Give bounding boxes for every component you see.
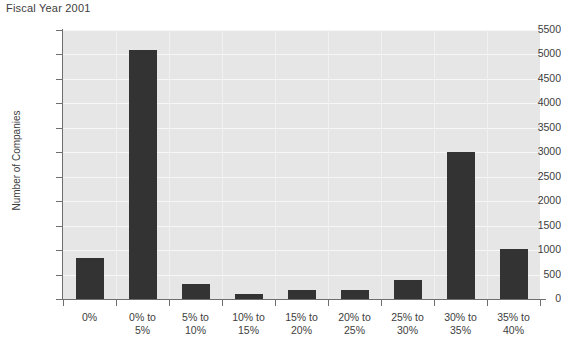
vertical-gridline [328, 30, 329, 299]
y-tick-label: 5000 [513, 48, 561, 59]
bar [288, 290, 316, 299]
x-tick-label: 35% to 40% [487, 311, 540, 337]
x-tick-label: 10% to 15% [222, 311, 275, 337]
vertical-gridline [116, 30, 117, 299]
x-tick-label: 30% to 35% [434, 311, 487, 337]
vertical-gridline [434, 30, 435, 299]
y-tick-label: 4000 [513, 97, 561, 108]
y-tick-label: 2000 [513, 195, 561, 206]
bar [76, 258, 104, 299]
vertical-gridline [222, 30, 223, 299]
chart-title: Fiscal Year 2001 [6, 2, 91, 14]
vertical-gridline [169, 30, 170, 299]
x-tick-mark [116, 299, 117, 306]
y-tick-label: 1500 [513, 220, 561, 231]
bar [129, 50, 157, 299]
x-tick-mark [487, 299, 488, 306]
x-axis-line [57, 299, 546, 300]
vertical-gridline [487, 30, 488, 299]
y-tick-mark [56, 79, 63, 80]
plot-area [63, 30, 540, 299]
y-tick-label: 500 [513, 269, 561, 280]
y-axis-line [62, 29, 63, 300]
y-tick-label: 2500 [513, 171, 561, 182]
y-tick-label: 5500 [513, 24, 561, 35]
y-tick-mark [56, 103, 63, 104]
x-tick-mark [169, 299, 170, 306]
x-tick-mark [328, 299, 329, 306]
x-tick-label: 5% to 10% [169, 311, 222, 337]
vertical-gridline [381, 30, 382, 299]
x-tick-mark [222, 299, 223, 306]
bar-chart: Fiscal Year 2001 Number of Companies 050… [0, 0, 561, 351]
x-tick-mark [381, 299, 382, 306]
y-tick-mark [56, 275, 63, 276]
y-tick-label: 3000 [513, 146, 561, 157]
y-tick-mark [56, 152, 63, 153]
bar [394, 280, 422, 299]
x-tick-mark [275, 299, 276, 306]
y-tick-label: 0 [513, 293, 561, 304]
y-tick-mark [56, 201, 63, 202]
vertical-gridline [275, 30, 276, 299]
x-tick-label: 0% [63, 311, 116, 324]
x-tick-mark [434, 299, 435, 306]
y-axis-title: Number of Companies [11, 81, 22, 241]
gridline [63, 30, 540, 31]
x-tick-label: 25% to 30% [381, 311, 434, 337]
y-tick-mark [56, 177, 63, 178]
x-tick-mark [63, 299, 64, 306]
bar [341, 290, 369, 299]
y-tick-label: 3500 [513, 122, 561, 133]
y-tick-mark [56, 226, 63, 227]
x-tick-mark [540, 299, 541, 306]
y-tick-mark [56, 30, 63, 31]
y-tick-mark [56, 128, 63, 129]
y-tick-mark [56, 299, 63, 300]
x-tick-label: 15% to 20% [275, 311, 328, 337]
y-tick-mark [56, 250, 63, 251]
y-tick-label: 4500 [513, 73, 561, 84]
x-tick-label: 0% to 5% [116, 311, 169, 337]
bar [447, 152, 475, 299]
x-tick-label: 20% to 25% [328, 311, 381, 337]
y-tick-mark [56, 54, 63, 55]
y-tick-label: 1000 [513, 244, 561, 255]
bar [182, 284, 210, 299]
